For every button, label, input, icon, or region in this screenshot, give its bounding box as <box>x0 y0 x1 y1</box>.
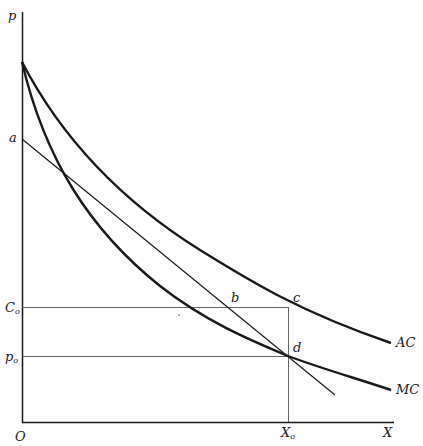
a-label: a <box>9 130 17 145</box>
c-o-label: Co <box>5 300 20 316</box>
x-o-label: Xo <box>280 425 295 441</box>
ac-curve <box>22 62 391 343</box>
x-o-label-sub: o <box>290 432 295 441</box>
c-o-label-sub: o <box>15 307 20 316</box>
p-o-label: po <box>5 349 18 365</box>
cost-curve-diagram: p X O a Co po Xo b c d AC MC <box>0 0 423 446</box>
mc-curve-label: MC <box>395 382 419 397</box>
stray-dot <box>178 314 180 316</box>
p-o-label-sub: o <box>13 356 18 365</box>
c-o-label-main: C <box>5 300 15 315</box>
point-c-label: c <box>293 290 301 305</box>
point-d-label: d <box>293 340 301 355</box>
origin-label: O <box>15 429 26 444</box>
y-axis-label: p <box>8 8 17 23</box>
x-axis-label: X <box>382 425 393 440</box>
ac-curve-label: AC <box>395 335 415 350</box>
mc-curve <box>22 62 391 390</box>
point-b-label: b <box>231 290 239 305</box>
